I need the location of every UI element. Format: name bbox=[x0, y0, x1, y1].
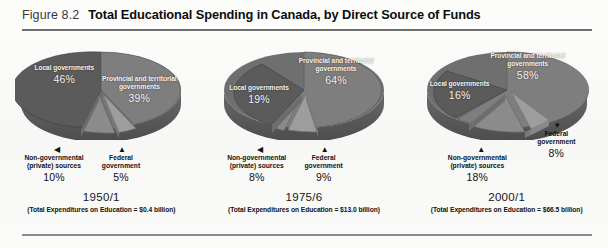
pie-panel-1950: Local governments 46% Provincial and ter… bbox=[0, 36, 203, 222]
footer-divider bbox=[22, 234, 592, 236]
figure-header: Figure 8.2 Total Educational Spending in… bbox=[22, 7, 592, 27]
pie-panel-2000: Provincial and territorial governments 5… bbox=[405, 36, 608, 222]
caption-total-2000: (Total Expenditures on Education = $66.5… bbox=[405, 205, 608, 214]
header-divider bbox=[22, 29, 592, 31]
figure-container: Figure 8.2 Total Educational Spending in… bbox=[0, 0, 608, 248]
figure-title: Total Educational Spending in Canada, by… bbox=[88, 7, 480, 22]
pointer-up-icon-nongov-2000: ▲ bbox=[477, 146, 485, 154]
callout-non-governmental-1975: Non-governmental (private) sources 8% bbox=[211, 154, 303, 184]
caption-1975: 1975/6 (Total Expenditures on Education … bbox=[203, 191, 406, 214]
callout-non-governmental-1950: Non-governmental (private) sources 10% bbox=[8, 154, 100, 184]
caption-1950: 1950/1 (Total Expenditures on Education … bbox=[0, 191, 203, 214]
pointer-up-icon-federal-1975: ▲ bbox=[321, 146, 329, 154]
callout-non-governmental-2000: Non-governmental (private) sources 18% bbox=[431, 154, 523, 184]
pie-panel-1975: Provincial and territorial governments 6… bbox=[203, 36, 406, 222]
callout-federal-1975: Federal government 9% bbox=[295, 154, 353, 184]
pointer-left-icon-nongov-1975: ◀ bbox=[257, 146, 263, 154]
pointer-down-icon-federal-2000: ▼ bbox=[553, 122, 561, 130]
pointer-left-icon-nongov-1950: ◀ bbox=[54, 146, 60, 154]
callout-federal-2000: Federal government 8% bbox=[527, 130, 585, 160]
pie-chart-row: Local governments 46% Provincial and ter… bbox=[0, 36, 608, 222]
caption-year-1975: 1975/6 bbox=[203, 191, 406, 204]
pointer-up-icon-federal-1950: ▲ bbox=[118, 146, 126, 154]
pie-chart-1975-svg bbox=[218, 40, 390, 140]
pie-stage-1950: Local governments 46% Provincial and ter… bbox=[15, 40, 187, 140]
caption-total-1975: (Total Expenditures on Education = $13.0… bbox=[203, 205, 406, 214]
pie-chart-1950-svg bbox=[15, 40, 187, 140]
pie-chart-2000-svg bbox=[421, 40, 593, 140]
caption-2000: 2000/1 (Total Expenditures on Education … bbox=[405, 191, 608, 214]
caption-year-2000: 2000/1 bbox=[405, 191, 608, 204]
pie-stage-2000: Provincial and territorial governments 5… bbox=[421, 40, 593, 140]
caption-total-1950: (Total Expenditures on Education = $0.4 … bbox=[0, 205, 203, 214]
pie-stage-1975: Provincial and territorial governments 6… bbox=[218, 40, 390, 140]
callout-federal-1950: Federal government 5% bbox=[92, 154, 150, 184]
figure-number: Figure 8.2 bbox=[22, 8, 79, 22]
caption-year-1950: 1950/1 bbox=[0, 191, 203, 204]
